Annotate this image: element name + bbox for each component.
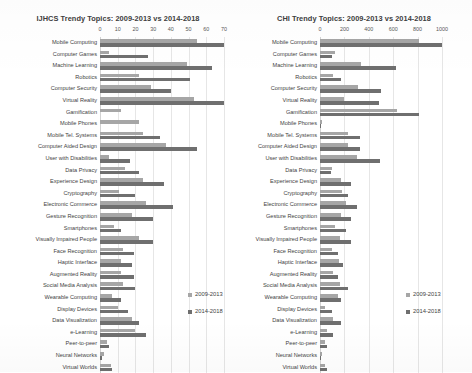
bars-cell: [100, 223, 236, 235]
category-label: Peer-to-peer: [16, 341, 100, 347]
bars-cell: [320, 315, 472, 327]
bar-2009-2013: [320, 317, 333, 321]
category-label: Mobile Tel. Systems: [16, 133, 100, 139]
bars-cell: [100, 362, 236, 373]
bar-2009-2013: [320, 340, 325, 344]
bars-cell: [320, 153, 472, 165]
bar-2009-2013: [100, 225, 114, 229]
legend-item[interactable]: 2009-2013: [188, 292, 223, 298]
bar-group-row: Smartphones: [240, 223, 472, 235]
bar-group-row: Machine Learning: [240, 60, 472, 72]
category-label: Data Visualization: [240, 318, 320, 324]
bar-2014-2018: [100, 368, 112, 372]
category-label: Wearable Computing: [240, 295, 320, 301]
bars-cell: [100, 165, 236, 177]
bar-2014-2018: [100, 147, 197, 151]
bar-2009-2013: [320, 329, 327, 333]
bar-2009-2013: [100, 352, 104, 356]
bars-cell: [320, 327, 472, 339]
bar-group-row: Experience Design: [16, 176, 236, 188]
bars-cell: [100, 246, 236, 258]
bar-group-row: e-Learning: [240, 327, 472, 339]
legend-swatch-icon: [406, 310, 410, 314]
category-label: Virtual Worlds: [16, 365, 100, 371]
category-label: Augmented Reality: [240, 272, 320, 278]
bar-2014-2018: [100, 55, 148, 59]
bars-cell: [100, 153, 236, 165]
bars-cell: [100, 130, 236, 142]
category-label: e-Learning: [240, 330, 320, 336]
bar-group-row: User with Disabilities: [240, 153, 472, 165]
bar-2009-2013: [320, 51, 335, 55]
bar-group-row: Computer Security: [240, 83, 472, 95]
bar-2009-2013: [320, 271, 333, 275]
bars-cell: [320, 107, 472, 119]
bar-2014-2018: [100, 252, 134, 256]
bars-cell: [320, 199, 472, 211]
bar-group-row: Mobile Phones: [16, 118, 236, 130]
bar-2009-2013: [100, 271, 121, 275]
bar-group-row: Cryptography: [240, 188, 472, 200]
bar-2014-2018: [320, 147, 360, 151]
legend-label: 2014-2018: [413, 309, 441, 315]
bar-2014-2018: [100, 182, 164, 186]
bar-2009-2013: [320, 236, 340, 240]
category-label: User with Disabilities: [240, 156, 320, 162]
chart-panel-ijhcs: IJHCS Trendy Topics: 2009-2013 vs 2014-2…: [0, 0, 236, 372]
bar-2009-2013: [100, 97, 194, 101]
bar-2014-2018: [100, 78, 190, 82]
x-tick-label: 60: [203, 26, 209, 32]
bar-2009-2013: [320, 143, 348, 147]
category-label: Display Devices: [240, 307, 320, 313]
bar-2014-2018: [100, 159, 130, 163]
x-tick-label: 70: [221, 26, 227, 32]
legend-swatch-icon: [188, 293, 192, 297]
bar-2009-2013: [100, 109, 121, 113]
bars-cell: [320, 49, 472, 61]
category-label: Social Media Analysis: [16, 283, 100, 289]
bar-2014-2018: [320, 182, 351, 186]
legend-item[interactable]: 2014-2018: [188, 309, 223, 315]
bar-group-row: Mobile Tel. Systems: [16, 130, 236, 142]
bar-2014-2018: [320, 89, 381, 93]
category-label: Social Media Analysis: [240, 283, 320, 289]
chart-title-ijhcs: IJHCS Trendy Topics: 2009-2013 vs 2014-2…: [0, 0, 236, 23]
bar-2009-2013: [320, 39, 419, 43]
category-label: Computer Games: [240, 52, 320, 58]
category-label: Computer Security: [16, 86, 100, 92]
category-label: e-Learning: [16, 330, 100, 336]
bar-2014-2018: [320, 101, 379, 105]
chart-panel-chi: CHI Trendy Topics: 2009-2013 vs 2014-201…: [236, 0, 472, 372]
bar-group-row: Computer Aided Design: [16, 141, 236, 153]
bar-2014-2018: [320, 368, 327, 372]
bar-2009-2013: [100, 213, 132, 217]
legend-item[interactable]: 2014-2018: [406, 309, 441, 315]
bars-cell: [320, 188, 472, 200]
category-label: Computer Aided Design: [240, 144, 320, 150]
bar-2009-2013: [320, 352, 322, 356]
category-label: Experience Design: [240, 179, 320, 185]
bar-group-row: Robotics: [240, 72, 472, 84]
bars-cell: [100, 211, 236, 223]
bars-cell: [100, 118, 236, 130]
category-label: Visually Impaired People: [240, 237, 320, 243]
bar-2014-2018: [320, 240, 351, 244]
category-label: Face Recognition: [16, 249, 100, 255]
bars-cell: [320, 234, 472, 246]
category-label: Gamification: [16, 110, 100, 116]
bars-cell: [320, 350, 472, 362]
bars-cell: [100, 95, 236, 107]
legend-item[interactable]: 2009-2013: [406, 292, 441, 298]
bar-group-row: Mobile Phones: [240, 118, 472, 130]
bar-2009-2013: [320, 155, 357, 159]
bars-cell: [320, 72, 472, 84]
bars-cell: [320, 130, 472, 142]
bar-group-row: Mobile Computing: [16, 37, 236, 49]
bars-cell: [320, 292, 472, 304]
bar-group-row: Cryptography: [16, 188, 236, 200]
bars-cell: [320, 118, 472, 130]
bar-2014-2018: [320, 321, 341, 325]
bar-2014-2018: [320, 66, 396, 70]
category-label: Electronic Commerce: [16, 202, 100, 208]
bar-group-row: User with Disabilities: [16, 153, 236, 165]
